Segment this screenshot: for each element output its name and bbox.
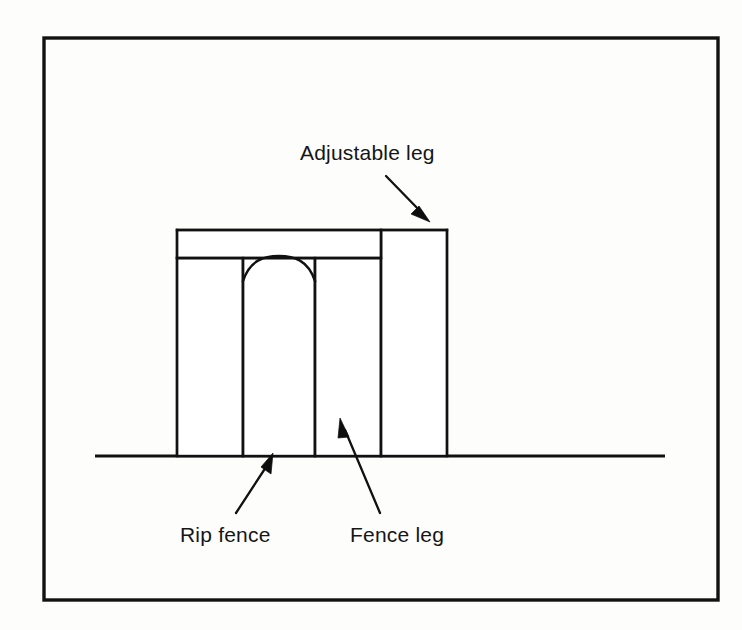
- rip-fence-technical-drawing: Adjustable leg Rip fence Fence leg: [0, 0, 742, 630]
- fence-assembly: [177, 230, 447, 456]
- adjustable-leg-label: Adjustable leg: [300, 141, 435, 164]
- figure-page: Adjustable leg Rip fence Fence leg: [0, 0, 742, 630]
- left-outer-leg: [177, 258, 243, 456]
- rip-fence-panel: [243, 258, 315, 456]
- adjustable-leg-block: [381, 230, 447, 456]
- fence-leg-label: Fence leg: [350, 523, 444, 546]
- top-cross-bar: [177, 230, 381, 258]
- rip-fence-label: Rip fence: [180, 523, 271, 546]
- fence-leg: [315, 258, 381, 456]
